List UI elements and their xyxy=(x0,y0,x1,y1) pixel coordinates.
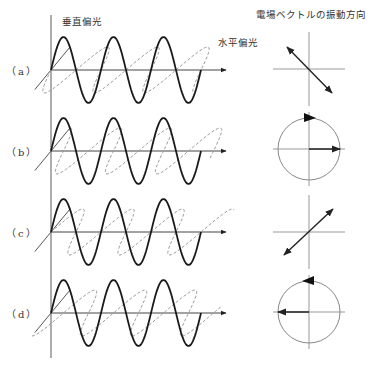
depth-axis-d xyxy=(35,290,70,333)
row-label-a: （a） xyxy=(6,63,38,78)
row-label-c: （c） xyxy=(6,225,38,240)
depth-axis-a xyxy=(35,47,70,90)
rotation-arrow-icon-b xyxy=(304,113,316,122)
depth-axis-b xyxy=(35,128,70,171)
wave-plots xyxy=(32,15,234,358)
row-label-b: （b） xyxy=(6,144,38,159)
vertical-polarization-label: 垂直偏光 xyxy=(62,14,102,28)
wave-figure xyxy=(0,0,368,371)
vector-title: 電場ベクトルの振動方向 xyxy=(256,7,366,21)
rotation-arrow-icon-d xyxy=(302,276,314,285)
polarization-diagram: 垂直偏光 水平偏光 電場ベクトルの振動方向 （a） （b） （c） （d） xyxy=(0,0,368,371)
vector-diagrams xyxy=(273,32,345,349)
row-label-d: （d） xyxy=(6,306,38,321)
horizontal-polarization-label: 水平偏光 xyxy=(218,35,258,49)
